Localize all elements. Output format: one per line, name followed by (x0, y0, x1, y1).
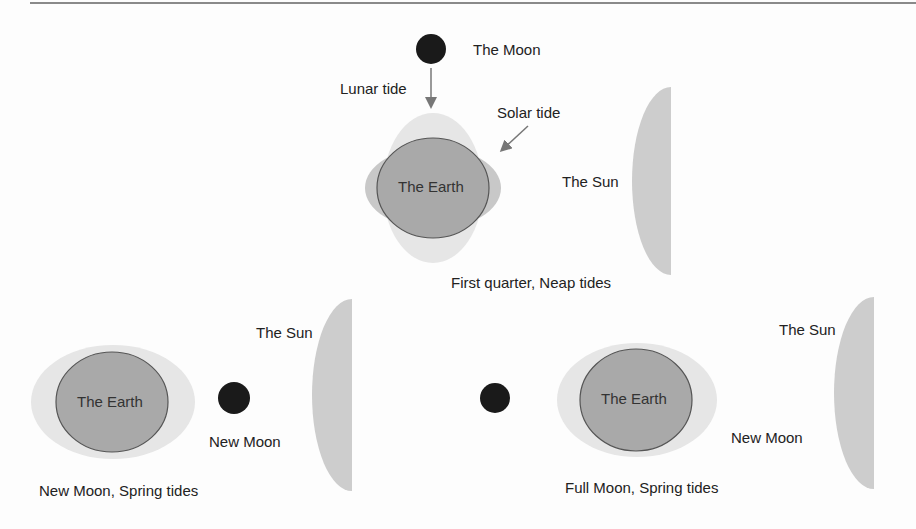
earth-label: The Earth (398, 178, 464, 196)
moon (480, 383, 510, 413)
moon-label: New Moon (731, 429, 803, 447)
moon (218, 382, 250, 414)
solar-tide-arrow (502, 126, 528, 150)
sun-label: The Sun (779, 321, 836, 339)
tides-diagram (0, 0, 916, 529)
moon (416, 34, 446, 64)
earth-label: The Earth (77, 393, 143, 411)
panel-caption: First quarter, Neap tides (451, 274, 611, 292)
sun-shape (834, 297, 874, 489)
earth-label: The Earth (601, 390, 667, 408)
panel-caption: Full Moon, Spring tides (565, 479, 718, 497)
sun-shape (632, 87, 671, 275)
moon-label: The Moon (473, 41, 541, 59)
solar-tide-label: Solar tide (497, 104, 560, 122)
lunar-tide-label: Lunar tide (340, 80, 407, 98)
sun-label: The Sun (562, 173, 619, 191)
sun-label: The Sun (256, 324, 313, 342)
panel-caption: New Moon, Spring tides (39, 482, 198, 500)
panel-first-quarter (365, 34, 671, 275)
sun-shape (312, 299, 352, 491)
moon-label: New Moon (209, 433, 281, 451)
